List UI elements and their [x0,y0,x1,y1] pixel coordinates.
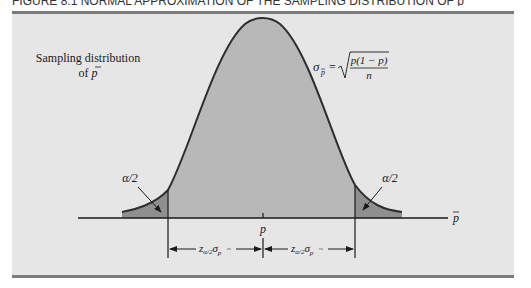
sampling-distribution-label: Sampling distribution [36,51,140,65]
normal-distribution-diagram: Sampling distribution of p σ p = p(1 − p… [0,0,531,288]
equals-sign: = [329,60,336,74]
formula-numerator: p(1 − p) [350,54,388,67]
top-rule [12,11,514,14]
formula-denominator: n [366,69,372,81]
sigma-subscript: p [320,68,325,77]
sigma-symbol: σ [313,59,320,74]
center-p-label: p [259,222,266,236]
bottom-rule [12,275,514,278]
sampling-distribution-of-label: of p [79,66,98,80]
alpha-half-left-label: α/2 [122,171,138,185]
axis-variable-label: p [452,211,459,225]
alpha-half-right-label: α/2 [382,171,398,185]
